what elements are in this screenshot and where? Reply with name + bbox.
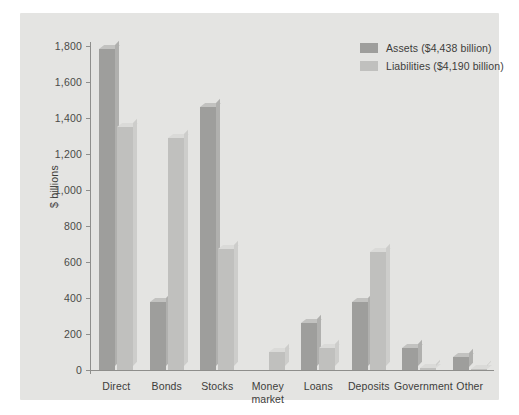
bar-top (471, 365, 492, 369)
chart-legend: Assets ($4,438 billion)Liabilities ($4,1… (360, 39, 504, 75)
bar-group (192, 46, 243, 370)
x-axis-label: Government (394, 380, 445, 393)
bar-face (370, 252, 386, 370)
bar-liabilities (471, 369, 487, 370)
bar-face (420, 368, 436, 370)
bar-face (402, 348, 418, 370)
bar-group (344, 46, 395, 370)
bar-liabilities (218, 249, 234, 370)
bar-assets (200, 107, 216, 370)
y-tick-label: 1,000 (55, 184, 82, 196)
legend-swatch (360, 43, 378, 53)
y-tick-label: 200 (64, 328, 82, 340)
legend-swatch (360, 61, 378, 71)
bar-side (335, 340, 339, 366)
chart-panel: $ billions 02004006008001,0001,2001,4001… (20, 13, 499, 400)
legend-label: Assets ($4,438 billion) (386, 42, 492, 54)
x-axis-label: Direct (91, 380, 142, 393)
bar-assets (99, 49, 115, 370)
bar-side (234, 241, 238, 366)
bar-side (418, 340, 422, 366)
bar-group (91, 46, 142, 370)
x-axis-label: Bonds (142, 380, 193, 393)
legend-label: Liabilities ($4,190 billion) (386, 60, 504, 72)
legend-item: Liabilities ($4,190 billion) (360, 57, 504, 75)
plot-area: 02004006008001,0001,2001,4001,6001,800 D… (91, 46, 495, 370)
bar-side (285, 344, 289, 366)
bar-face (168, 138, 184, 370)
y-tick-label: 400 (64, 292, 82, 304)
x-axis-label: Loans (293, 380, 344, 393)
bar-side (133, 119, 137, 366)
x-axis-line (90, 370, 494, 371)
bar-liabilities (269, 352, 285, 370)
bar-face (453, 357, 469, 371)
bar-assets (301, 323, 317, 370)
bar-liabilities (319, 348, 335, 370)
x-axis-label: Money market (243, 380, 294, 405)
chart-figure: $ billions 02004006008001,0001,2001,4001… (0, 0, 519, 415)
bar-group (293, 46, 344, 370)
bar-group (445, 46, 496, 370)
bar-liabilities (420, 368, 436, 370)
bar-liabilities (168, 138, 184, 370)
y-tick-label: 800 (64, 220, 82, 232)
y-tick-label: 1,600 (55, 76, 82, 88)
bar-face (99, 49, 115, 370)
bar-group (243, 46, 294, 370)
bar-assets (352, 302, 368, 370)
bar-face (200, 107, 216, 370)
bar-face (352, 302, 368, 370)
y-tick-mark (86, 370, 91, 371)
x-axis-label: Other (445, 380, 496, 393)
bar-group (142, 46, 193, 370)
bar-face (150, 302, 166, 370)
x-axis-label: Stocks (192, 380, 243, 393)
y-tick-label: 600 (64, 256, 82, 268)
y-tick-label: 1,800 (55, 40, 82, 52)
x-axis-label: Deposits (344, 380, 395, 393)
y-tick-label: 0 (76, 364, 82, 376)
bar-top (420, 364, 441, 368)
bar-face (301, 323, 317, 370)
bar-side (184, 130, 188, 366)
bar-face (319, 348, 335, 370)
legend-item: Assets ($4,438 billion) (360, 39, 504, 57)
bar-assets (402, 348, 418, 370)
bar-liabilities (117, 127, 133, 370)
bar-liabilities (370, 252, 386, 370)
bar-assets (150, 302, 166, 370)
bar-side (469, 348, 473, 366)
bar-face (218, 249, 234, 370)
bar-side (386, 244, 390, 366)
y-tick-label: 1,400 (55, 112, 82, 124)
y-tick-label: 1,200 (55, 148, 82, 160)
bar-face (117, 127, 133, 370)
bar-face (269, 352, 285, 370)
bar-assets (453, 357, 469, 371)
bar-group (394, 46, 445, 370)
